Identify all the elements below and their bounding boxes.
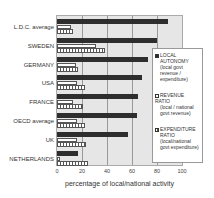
category-label: GERMANY [24, 62, 54, 69]
revenue-ratio-bar [57, 25, 71, 29]
solid-swatch-icon [155, 54, 159, 58]
x-axis-label: percentage of local/national activity [56, 180, 183, 187]
revenue-ratio-bar [57, 119, 77, 123]
expenditure-ratio-bar [57, 48, 105, 53]
local-autonomy-bar [57, 151, 78, 156]
revenue-ratio-bar [57, 157, 60, 161]
revenue-ratio-bar [57, 63, 76, 67]
category-label: UK [46, 137, 54, 144]
legend-item-expenditure-ratio: EXPENDITURE RATIO (local/national govt e… [155, 126, 200, 150]
legend-title: REVENUE RATIO [155, 92, 184, 104]
expenditure-ratio-bar [57, 67, 78, 72]
expenditure-ratio-bar [57, 142, 86, 147]
expenditure-ratio-bar [57, 85, 85, 90]
hatched-swatch-icon [155, 128, 159, 132]
local-autonomy-bar [57, 19, 168, 24]
category-label: USA [42, 80, 54, 87]
legend-subtitle: RATIO (local/national govt expenditure) [155, 132, 200, 150]
expenditure-ratio-bar [57, 29, 73, 34]
expenditure-ratio-bar [57, 104, 83, 109]
legend-item-revenue-ratio: REVENUE RATIO (local / national govt rev… [155, 92, 200, 116]
x-tick-label: 100 [177, 168, 186, 174]
revenue-ratio-bar [57, 44, 96, 48]
legend-subtitle: (local / national govt revenue) [155, 104, 200, 116]
expenditure-ratio-bar [57, 161, 88, 166]
category-label: SWEDEN [28, 43, 54, 50]
local-autonomy-bar [57, 132, 128, 137]
local-autonomy-bar [57, 57, 148, 62]
local-autonomy-bar [57, 94, 138, 99]
category-label: NETHERLANDS [9, 156, 54, 163]
x-tick-label: 80 [154, 168, 160, 174]
revenue-ratio-bar [57, 81, 77, 85]
legend-item-local-autonomy: LOCAL AUTONOMY (local govt revenue / exp… [155, 52, 200, 82]
category-label: FRANCE [29, 99, 54, 106]
x-tick-label: 60 [129, 168, 135, 174]
legend: LOCAL AUTONOMY (local govt revenue / exp… [152, 48, 203, 163]
revenue-ratio-bar [57, 100, 73, 104]
local-autonomy-bar [57, 75, 142, 80]
revenue-ratio-bar [57, 138, 77, 142]
expenditure-ratio-bar [57, 123, 85, 128]
white-swatch-icon [155, 94, 159, 98]
x-tick-label: 0 [55, 168, 58, 174]
category-label: L.D.C. average [14, 24, 54, 31]
x-tick-label: 40 [104, 168, 110, 174]
local-autonomy-bar [57, 38, 157, 43]
category-label: OECD average [13, 118, 54, 125]
legend-subtitle: AUTONOMY (local govt revenue / expenditu… [155, 58, 200, 82]
x-tick-label: 20 [79, 168, 85, 174]
local-autonomy-bar [57, 113, 137, 118]
